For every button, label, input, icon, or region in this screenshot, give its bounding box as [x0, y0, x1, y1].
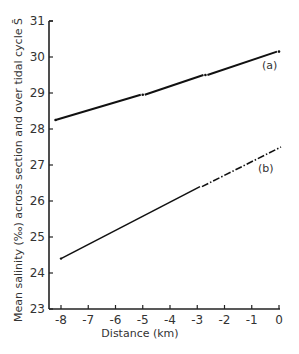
x-tick-label: -1 [246, 313, 258, 327]
y-tick-label: 26 [30, 194, 45, 208]
y-tick-label: 23 [30, 302, 45, 316]
x-tick-label: -6 [110, 313, 122, 327]
series-lines [54, 50, 281, 259]
x-tick-label: -5 [137, 313, 149, 327]
x-tick-label: -7 [82, 313, 94, 327]
series-label-b: (b) [258, 162, 274, 175]
x-tick-label: -4 [164, 313, 176, 327]
series-a-segment [56, 95, 141, 120]
series-a-segment [145, 75, 204, 95]
series-b-solid [61, 187, 200, 259]
x-tick-label: -8 [55, 313, 67, 327]
series-a-point [278, 50, 281, 53]
y-tick-label: 31 [30, 14, 45, 28]
series-a-point [141, 94, 144, 97]
y-axis-title: Mean salinity (‰) across section and ove… [12, 18, 25, 322]
axes: 232425262728293031-8-7-6-5-4-3-2-10 [30, 14, 283, 327]
x-tick-label: -3 [191, 313, 203, 327]
x-axis-title: Distance (km) [101, 327, 178, 340]
series-a-point [54, 119, 57, 122]
y-tick-label: 24 [30, 266, 45, 280]
y-tick-label: 27 [30, 158, 45, 172]
series-label-a: (a) [262, 59, 277, 72]
y-tick-label: 28 [30, 122, 45, 136]
y-tick-label: 29 [30, 86, 45, 100]
series-b-point [60, 257, 62, 259]
x-tick-label: 0 [275, 313, 283, 327]
x-tick-label: -2 [219, 313, 231, 327]
salinity-chart: 232425262728293031-8-7-6-5-4-3-2-10 (a) … [0, 0, 299, 354]
y-tick-label: 25 [30, 230, 45, 244]
series-a-point [204, 74, 207, 77]
y-tick-label: 30 [30, 50, 45, 64]
